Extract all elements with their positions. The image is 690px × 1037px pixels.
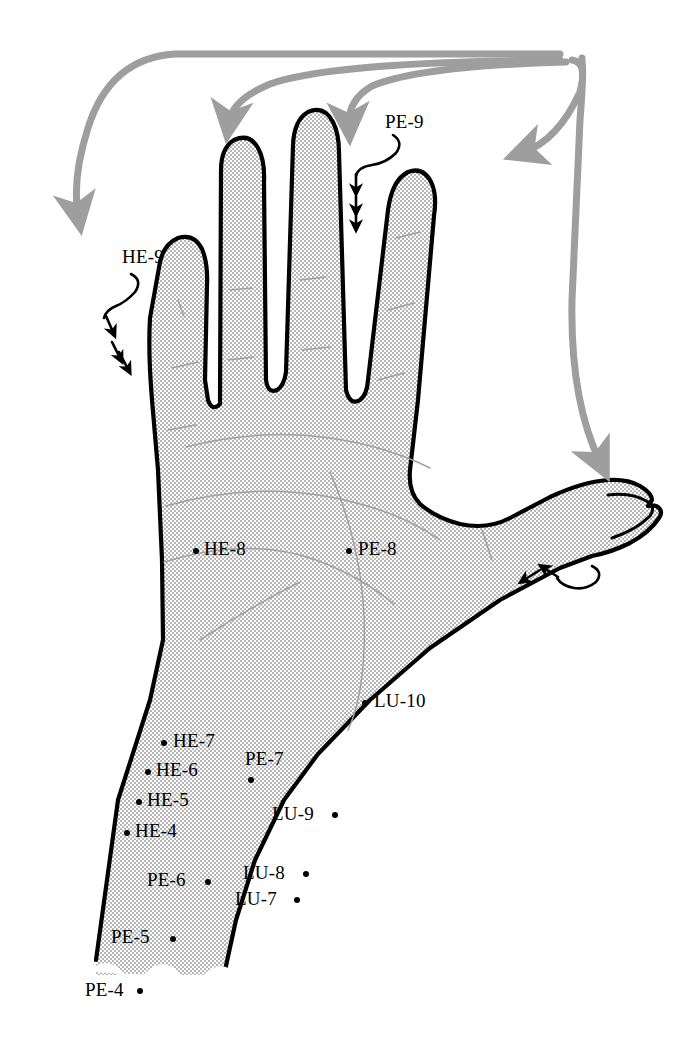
point-marker-he-7 [161,740,167,746]
point-label-pe-8: PE-8 [358,539,397,558]
point-label-pe-4: PE-4 [85,980,124,999]
point-marker-pe-7 [248,777,254,783]
point-label-pe-5: PE-5 [111,927,150,946]
point-label-he-8: HE-8 [204,539,246,558]
point-marker-pe-4 [137,988,143,994]
point-marker-lu-10 [362,700,368,706]
point-marker-pe-5 [170,936,176,942]
point-label-pe-7: PE-7 [245,749,284,768]
point-label-lu-9: LU-9 [272,804,314,823]
point-marker-he-6 [145,769,151,775]
point-marker-he-8 [193,548,199,554]
flow-arrow-index-finger [524,60,583,152]
point-label-he-7: HE-7 [173,731,215,750]
point-label-lu-7: LU-7 [235,889,277,908]
point-marker-lu-9 [332,812,338,818]
point-marker-he-5 [136,799,142,805]
point-marker-lu-7 [294,897,300,903]
point-marker-lu-8 [303,871,309,877]
needle-mark-he-9 [104,274,138,369]
point-label-he-5: HE-5 [147,790,189,809]
hand-acupuncture-diagram: HE-9 PE-9 HE-8 PE-8 LU-10 HE-7 HE-6 HE-5… [0,0,690,1037]
flow-arrow-thumb [572,58,600,462]
point-label-he-9: HE-9 [122,247,164,266]
point-label-he-4: HE-4 [135,821,177,840]
point-label-pe-9: PE-9 [385,112,424,131]
point-label-lu-10: LU-10 [374,691,426,710]
point-marker-pe-8 [346,548,352,554]
point-label-lu-8: LU-8 [243,863,285,882]
point-label-pe-6: PE-6 [147,870,186,889]
point-marker-pe-6 [205,879,211,885]
flow-arrow-middle-finger [349,62,566,124]
point-label-he-6: HE-6 [156,760,198,779]
point-marker-he-4 [124,830,130,836]
